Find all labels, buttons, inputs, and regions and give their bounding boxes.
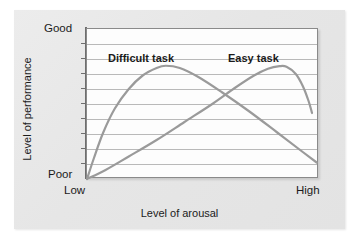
x-axis-title: Level of arousal bbox=[0, 207, 359, 219]
plot-area bbox=[86, 28, 318, 178]
series-label-easy-task: Easy task bbox=[228, 52, 279, 64]
y-axis-bottom-label: Poor bbox=[48, 168, 72, 181]
curve-easy-task bbox=[87, 66, 312, 179]
series-label-difficult-task: Difficult task bbox=[108, 52, 174, 64]
x-axis-right-label: High bbox=[296, 184, 320, 197]
y-axis-title: Level of performance bbox=[21, 49, 33, 169]
x-axis-left-label: Low bbox=[64, 184, 85, 197]
y-axis-top-label: Good bbox=[44, 22, 72, 35]
figure-root: Good Poor Low High Difficult task Easy t… bbox=[0, 0, 359, 241]
